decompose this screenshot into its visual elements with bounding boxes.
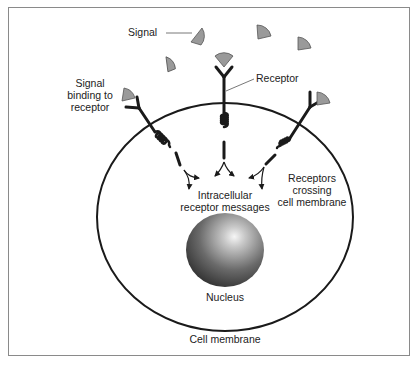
nucleus — [186, 213, 264, 287]
signal-icon — [164, 55, 176, 72]
message-arrows — [184, 162, 264, 189]
receptors-crossing-line-2: crossing — [274, 184, 350, 196]
signal-icon — [257, 25, 271, 39]
receptor-label: Receptor — [256, 72, 299, 84]
signal-binding-line-3: receptor — [62, 101, 118, 113]
receptors-crossing-line-3: cell membrane — [274, 196, 350, 208]
intracellular-line-2: receptor messages — [180, 201, 270, 213]
cell-membrane-label: Cell membrane — [180, 333, 270, 345]
receptor-right — [266, 92, 322, 164]
receptor-left — [126, 97, 180, 165]
nucleus-label: Nucleus — [198, 291, 252, 303]
signal-label: Signal — [128, 26, 157, 38]
receptors-crossing-line-1: Receptors — [274, 172, 350, 184]
intracellular-line-1: Intracellular — [180, 189, 270, 201]
signal-icon-bound-center — [215, 53, 233, 67]
signal-binding-label: Signal binding to receptor — [62, 77, 118, 113]
cell-signaling-diagram — [0, 0, 416, 366]
receptors-crossing-label: Receptors crossing cell membrane — [274, 172, 350, 208]
signal-icon — [298, 37, 311, 50]
receptor-center — [216, 67, 232, 158]
signal-binding-line-2: binding to — [62, 89, 118, 101]
receptor-leader-line — [226, 79, 254, 91]
signal-icon — [191, 28, 204, 45]
signal-icon-bound-left — [122, 88, 135, 101]
signal-icon-bound-right — [317, 92, 330, 105]
intracellular-label: Intracellular receptor messages — [180, 189, 270, 213]
signal-binding-line-1: Signal — [62, 77, 118, 89]
